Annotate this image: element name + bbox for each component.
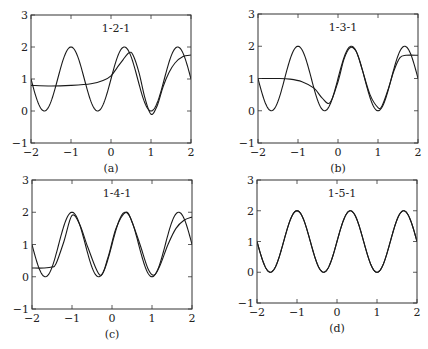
x-tick-label: 2: [189, 312, 196, 325]
y-tick-label: 3: [22, 174, 29, 187]
y-tick-label: −1: [13, 303, 29, 316]
y-tick-label: −1: [238, 297, 254, 310]
network-architecture-label: 1-4-1: [103, 187, 131, 200]
x-tick-label: −1: [290, 146, 306, 159]
target-curve: [31, 47, 191, 111]
y-tick-label: 1: [247, 236, 254, 249]
network-architecture-label: 1-3-1: [329, 21, 357, 34]
plot-area: [32, 212, 192, 277]
y-tick-label: 1: [21, 73, 28, 86]
panel-caption: (a): [103, 162, 118, 175]
x-tick-label: 0: [109, 312, 116, 325]
x-tick-label: 0: [108, 146, 115, 159]
y-tick-label: 3: [21, 9, 28, 22]
network-architecture-label: 1-2-1: [102, 22, 130, 35]
chart-panel-c: −2−1012−101231-4-1(c): [13, 174, 196, 341]
y-tick-label: 0: [247, 266, 254, 279]
x-tick-label: 2: [415, 146, 422, 159]
y-tick-label: 1: [22, 239, 29, 252]
panel-caption: (c): [105, 328, 120, 341]
x-tick-label: 0: [335, 146, 342, 159]
y-tick-label: 0: [22, 271, 29, 284]
x-tick-label: 2: [414, 306, 421, 319]
y-tick-label: 2: [22, 206, 29, 219]
plot-area: [257, 211, 417, 273]
y-tick-label: 0: [248, 105, 255, 118]
y-tick-label: 3: [248, 8, 255, 21]
y-tick-label: −1: [12, 137, 28, 150]
x-tick-label: 0: [334, 306, 341, 319]
chart-panel-b: −2−1012−101231-3-1(b): [239, 8, 422, 175]
approximation-curve: [32, 212, 192, 275]
y-tick-label: 0: [21, 105, 28, 118]
x-tick-label: 1: [374, 306, 381, 319]
x-tick-label: −1: [63, 146, 79, 159]
network-architecture-label: 1-5-1: [328, 187, 356, 200]
plot-area: [31, 47, 191, 114]
chart-panel-d: −2−1012−101231-5-1(d): [238, 174, 421, 335]
approximation-curve: [31, 52, 191, 114]
y-tick-label: −1: [239, 137, 255, 150]
panel-caption: (b): [330, 162, 346, 175]
x-tick-label: 1: [375, 146, 382, 159]
x-tick-label: 1: [148, 146, 155, 159]
figure-canvas: −2−1012−101231-2-1(a)−2−1012−101231-3-1(…: [0, 0, 428, 349]
y-tick-label: 3: [247, 174, 254, 187]
x-tick-label: −1: [289, 306, 305, 319]
plot-area: [258, 46, 418, 111]
x-tick-label: −1: [64, 312, 80, 325]
y-tick-label: 1: [248, 73, 255, 86]
y-tick-label: 2: [21, 41, 28, 54]
x-tick-label: 2: [188, 146, 195, 159]
panel-caption: (d): [329, 322, 345, 335]
y-tick-label: 2: [247, 205, 254, 218]
y-tick-label: 2: [248, 40, 255, 53]
approximation-curve: [257, 211, 417, 273]
x-tick-label: 1: [149, 312, 156, 325]
chart-panel-a: −2−1012−101231-2-1(a): [12, 9, 195, 175]
